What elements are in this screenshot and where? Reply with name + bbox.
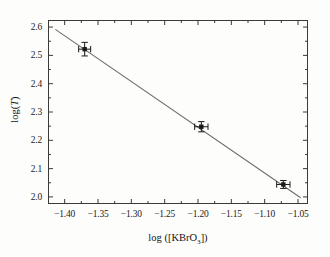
data-point-marker bbox=[82, 47, 86, 51]
data-point-marker bbox=[281, 182, 285, 186]
x-tick-label: −1.35 bbox=[81, 209, 115, 219]
data-point-marker bbox=[199, 125, 203, 129]
y-axis-title: log(T) bbox=[9, 80, 20, 140]
data-point-group-2 bbox=[277, 181, 290, 189]
x-tick-label: −1.25 bbox=[148, 209, 182, 219]
data-point-group-1 bbox=[195, 122, 208, 132]
plot-canvas bbox=[48, 20, 308, 204]
y-tick-label: 2.5 bbox=[14, 50, 42, 60]
fit-line bbox=[55, 29, 300, 197]
x-axis-title-text: log ([KBrO3]) bbox=[148, 232, 207, 243]
x-tick-label: −1.30 bbox=[114, 209, 148, 219]
y-tick-label: 2.6 bbox=[14, 22, 42, 32]
y-tick-label: 2.1 bbox=[14, 164, 42, 174]
x-tick-label: −1.15 bbox=[214, 209, 248, 219]
x-tick-label: −1.10 bbox=[248, 209, 282, 219]
figure-container: 2.02.12.22.32.42.52.6 −1.40−1.35−1.30−1.… bbox=[0, 0, 330, 257]
y-axis-title-text: log(T) bbox=[9, 96, 20, 122]
x-tick-label: −1.40 bbox=[48, 209, 82, 219]
data-point-group-0 bbox=[79, 42, 91, 56]
x-axis-title: log ([KBrO3]) bbox=[48, 232, 308, 246]
x-tick-label: −1.05 bbox=[281, 209, 315, 219]
y-tick-label: 2.0 bbox=[14, 192, 42, 202]
x-tick-label: −1.20 bbox=[181, 209, 215, 219]
